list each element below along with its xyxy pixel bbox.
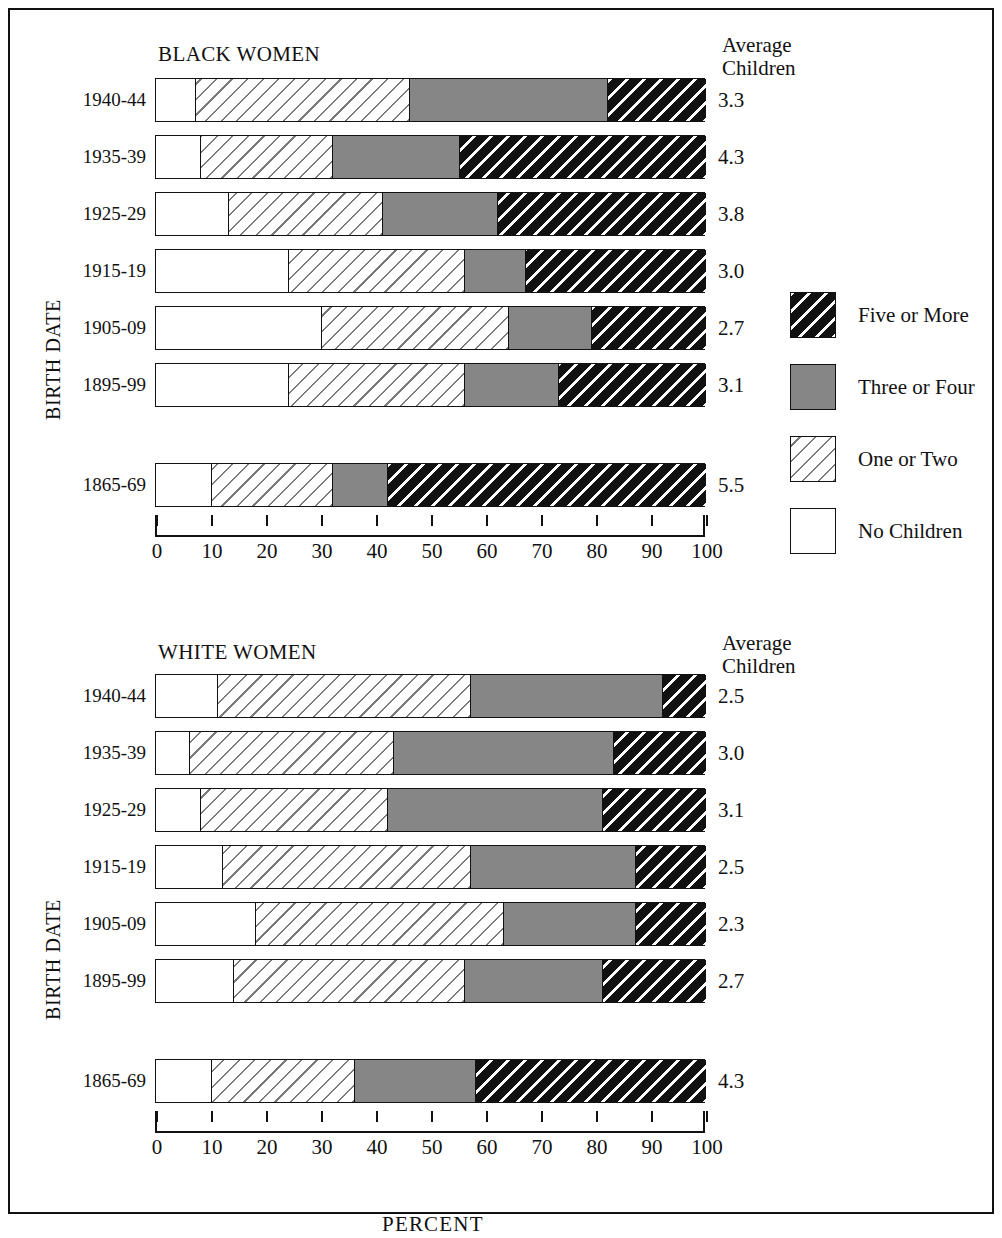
bar-segment <box>470 675 663 717</box>
average-children-value: 3.8 <box>718 202 744 227</box>
x-axis-tick <box>376 515 378 526</box>
x-axis-tick-label: 70 <box>532 539 553 564</box>
average-children-value: 2.5 <box>718 855 744 880</box>
x-axis-tick <box>156 515 158 526</box>
bar-segment <box>591 307 707 349</box>
bar-segment <box>475 1060 706 1102</box>
category-label: 1940-44 <box>83 685 146 707</box>
bar-row: 1915-192.5 <box>155 845 705 889</box>
x-axis-tick-label: 40 <box>367 539 388 564</box>
legend-label: No Children <box>858 519 962 544</box>
bar-segment <box>156 960 233 1002</box>
bar-row: 1915-193.0 <box>155 249 705 293</box>
bar-segment <box>613 732 707 774</box>
legend-label: One or Two <box>858 447 958 472</box>
x-axis-tick-label: 20 <box>257 1135 278 1160</box>
x-axis-tick-label: 90 <box>642 1135 663 1160</box>
category-label: 1925-29 <box>83 799 146 821</box>
x-axis-tick <box>321 515 323 526</box>
average-children-value: 2.5 <box>718 684 744 709</box>
plot-area: 1940-443.31935-394.31925-293.81915-193.0… <box>155 78 705 548</box>
x-axis-tick-label: 0 <box>152 539 163 564</box>
average-children-value: 5.5 <box>718 473 744 498</box>
average-header-line2: Children <box>722 655 796 678</box>
average-header-line1: Average <box>722 632 796 655</box>
bar-segment <box>156 789 200 831</box>
x-axis: 0102030405060708090100 <box>155 515 705 537</box>
bar-segment <box>156 464 211 506</box>
x-axis-tick <box>431 1111 433 1122</box>
x-axis-tick-label: 100 <box>691 1135 723 1160</box>
bar-segment <box>602 960 707 1002</box>
chart-title: BLACK WOMEN <box>158 42 320 67</box>
legend-swatch-no-children-icon <box>790 508 836 554</box>
legend-swatch-three-or-four-icon <box>790 364 836 410</box>
x-axis-tick <box>211 1111 213 1122</box>
bar-segment <box>635 846 707 888</box>
x-axis-tick <box>266 515 268 526</box>
bar-segment <box>464 250 525 292</box>
x-axis-tick <box>706 1111 708 1122</box>
legend-label: Three or Four <box>858 375 975 400</box>
bar-segment <box>228 193 382 235</box>
category-label: 1940-44 <box>83 89 146 111</box>
bar-row: 1905-092.7 <box>155 306 705 350</box>
bar-segment <box>459 136 707 178</box>
bar-segment <box>255 903 503 945</box>
x-axis-tick-label: 40 <box>367 1135 388 1160</box>
bar-segment <box>321 307 508 349</box>
x-axis-tick <box>651 1111 653 1122</box>
bar-segment <box>387 789 602 831</box>
average-children-value: 2.7 <box>718 316 744 341</box>
category-label: 1935-39 <box>83 146 146 168</box>
average-children-header: Average Children <box>722 632 796 678</box>
legend: Five or More Three or Four One or Two No… <box>790 292 990 542</box>
bar-segment <box>332 464 387 506</box>
bar-segment <box>156 675 217 717</box>
chart-white-women: WHITE WOMEN BIRTH DATE Average Children … <box>0 612 1002 1232</box>
x-axis: 0102030405060708090100 <box>155 1111 705 1133</box>
bar-segment <box>602 789 707 831</box>
bar-row: 1895-992.7 <box>155 959 705 1003</box>
bar-segment <box>464 960 602 1002</box>
x-axis-tick-label: 50 <box>422 1135 443 1160</box>
bar-segment <box>200 789 387 831</box>
legend-item-one-or-two[interactable]: One or Two <box>790 436 958 482</box>
x-axis-tick-label: 80 <box>587 1135 608 1160</box>
average-header-line1: Average <box>722 34 796 57</box>
bar-segment <box>156 364 288 406</box>
category-label: 1895-99 <box>83 970 146 992</box>
x-axis-tick-label: 0 <box>152 1135 163 1160</box>
bar-segment <box>217 675 470 717</box>
bar-row: 1925-293.1 <box>155 788 705 832</box>
average-children-value: 3.1 <box>718 798 744 823</box>
bar-segment <box>503 903 635 945</box>
bar-segment <box>393 732 613 774</box>
x-axis-tick <box>486 515 488 526</box>
x-axis-tick <box>541 1111 543 1122</box>
legend-item-three-or-four[interactable]: Three or Four <box>790 364 975 410</box>
category-label: 1915-19 <box>83 260 146 282</box>
legend-item-five-or-more[interactable]: Five or More <box>790 292 969 338</box>
x-axis-tick-label: 30 <box>312 539 333 564</box>
x-axis-tick <box>266 1111 268 1122</box>
bar-segment <box>409 79 607 121</box>
x-axis-tick-label: 10 <box>202 539 223 564</box>
x-axis-tick <box>431 515 433 526</box>
bar-segment <box>497 193 706 235</box>
bar-segment <box>156 732 189 774</box>
legend-item-no-children[interactable]: No Children <box>790 508 962 554</box>
bar-segment <box>222 846 470 888</box>
average-children-value: 3.0 <box>718 741 744 766</box>
bar-row: 1935-394.3 <box>155 135 705 179</box>
x-axis-tick-label: 10 <box>202 1135 223 1160</box>
average-children-value: 3.1 <box>718 373 744 398</box>
bar-row: 1865-694.3 <box>155 1059 705 1103</box>
bar-row: 1865-695.5 <box>155 463 705 507</box>
bar-segment <box>607 79 706 121</box>
category-label: 1925-29 <box>83 203 146 225</box>
x-axis-tick <box>211 515 213 526</box>
x-axis-tick-label: 70 <box>532 1135 553 1160</box>
category-label: 1935-39 <box>83 742 146 764</box>
category-label: 1905-09 <box>83 913 146 935</box>
